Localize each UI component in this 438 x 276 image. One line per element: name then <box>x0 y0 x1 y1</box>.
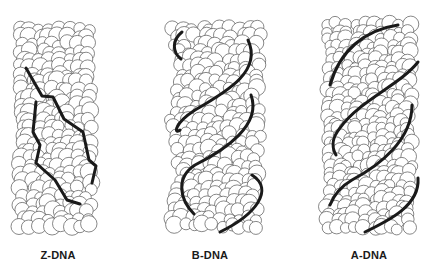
z-dna-model <box>11 21 100 235</box>
atom-sphere <box>403 221 416 234</box>
atom-sphere <box>249 221 262 234</box>
atom-sphere <box>391 224 402 235</box>
atom-sphere <box>81 216 97 232</box>
b-dna-model <box>164 20 267 235</box>
b-dna-label: B-DNA <box>170 249 250 261</box>
a-dna-label: A-DNA <box>329 249 409 261</box>
atom-sphere <box>352 150 363 161</box>
dna-forms-diagram <box>0 0 438 276</box>
atom-sphere <box>355 220 370 235</box>
a-dna-model <box>319 15 420 235</box>
atom-sphere <box>205 218 218 231</box>
z-dna-label: Z-DNA <box>18 249 98 261</box>
